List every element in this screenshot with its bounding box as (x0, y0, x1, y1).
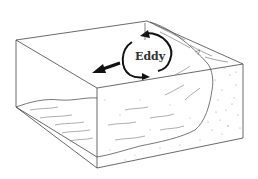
sediment-ripples-front (108, 66, 200, 140)
eddy-label: Eddy (135, 50, 166, 63)
surface-ripples-top (155, 25, 228, 62)
sediment-ripples-left (30, 107, 93, 141)
eddy-block-diagram: Eddy (0, 0, 258, 179)
stipple-front-face (105, 100, 201, 161)
outflow-arrowhead-icon (92, 64, 106, 73)
arrowhead-bottom-icon (142, 73, 150, 80)
eddy-symbol: Eddy (92, 23, 171, 80)
sediment-interface (16, 22, 213, 157)
